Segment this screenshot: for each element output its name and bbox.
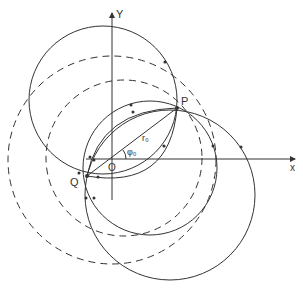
diagram-canvas: Y x P Q O r₀ φ₀ <box>0 0 303 288</box>
origin-label: O <box>108 163 116 173</box>
angle-arc <box>123 150 126 159</box>
solid-circle-large <box>85 110 255 280</box>
solid-circle-middle <box>83 101 217 235</box>
dashed-circle-inner <box>46 80 202 236</box>
diagram-svg <box>0 0 303 288</box>
solid-circle-top <box>29 26 177 174</box>
point-p-label: P <box>181 96 188 107</box>
point-q-label: Q <box>70 177 79 188</box>
x-axis-label: x <box>290 163 295 173</box>
radius-label: r₀ <box>142 134 149 143</box>
y-axis-label: Y <box>116 9 123 20</box>
angle-label: φ₀ <box>127 148 137 157</box>
